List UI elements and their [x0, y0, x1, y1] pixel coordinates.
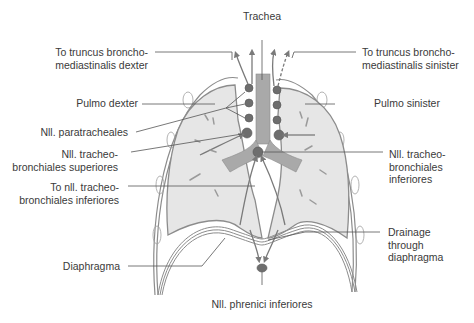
- label-drainage-through-diaphragma: Drainage through diaphragma: [388, 226, 443, 264]
- label-tracheobronchiales-inferiores: Nll. tracheo- bronchiales inferiores: [389, 148, 446, 186]
- label-paratracheales: Nll. paratracheales: [40, 126, 128, 139]
- label-tracheobronchiales-superiores: Nll. tracheo- bronchiales superiores: [12, 148, 118, 173]
- label-truncus-dexter: To truncus broncho- mediastinalis dexter: [55, 46, 148, 71]
- label-diaphragma: Diaphragma: [63, 260, 120, 273]
- label-truncus-sinister: To truncus broncho- mediastinalis sinist…: [362, 46, 459, 71]
- label-phrenici-inferiores: Nll. phrenici inferiores: [212, 298, 313, 311]
- label-pulmo-sinister: Pulmo sinister: [374, 97, 440, 110]
- label-pulmo-dexter: Pulmo dexter: [76, 97, 138, 110]
- label-trachea: Trachea: [243, 10, 281, 23]
- label-to-tracheobronchiales-inferiores: To nll. tracheo- bronchiales inferiores: [19, 181, 119, 206]
